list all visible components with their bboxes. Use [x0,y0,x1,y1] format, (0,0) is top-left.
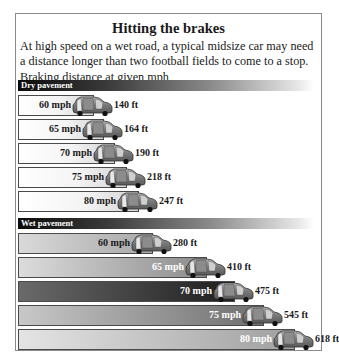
distance-label: 545 ft [284,309,308,320]
wet-section-header: Wet pavement [18,218,314,229]
car-icon [105,167,146,189]
wet-row: 80 mph 618 ft [18,329,318,350]
speed-label: 60 mph [39,99,71,110]
distance-label: 140 ft [114,99,138,110]
car-icon [117,191,158,213]
speed-label: 60 mph [98,237,130,248]
distance-label: 618 ft [315,333,339,344]
speed-label: 80 mph [240,333,272,344]
car-icon [242,305,283,327]
distance-label: 218 ft [147,171,171,182]
speed-label: 70 mph [60,147,92,158]
infographic-frame: Hitting the brakes At high speed on a we… [15,13,322,351]
distance-label: 410 ft [227,261,251,272]
car-icon [213,281,254,303]
wet-row: 75 mph 545 ft [18,305,318,326]
car-icon [131,233,172,255]
dry-section-header: Dry pavement [18,80,314,91]
distance-label: 280 ft [173,237,197,248]
speed-label: 70 mph [180,285,212,296]
speed-label: 80 mph [84,195,116,206]
car-icon [93,143,134,165]
dry-row: 60 mph 140 ft [18,95,318,116]
distance-label: 475 ft [255,285,279,296]
wet-row: 60 mph 280 ft [18,233,318,254]
wet-row: 65 mph 410 ft [18,257,318,278]
intro-text: At high speed on a wet road, a typical m… [20,39,318,69]
chart-title: Hitting the brakes [16,20,321,37]
dry-row: 80 mph 247 ft [18,191,318,212]
distance-label: 190 ft [135,147,159,158]
car-icon [185,257,226,279]
dry-row: 65 mph 164 ft [18,119,318,140]
speed-label: 75 mph [72,171,104,182]
distance-label: 247 ft [159,195,183,206]
speed-label: 65 mph [49,123,81,134]
dry-row: 70 mph 190 ft [18,143,318,164]
wet-row: 70 mph 475 ft [18,281,318,302]
dry-row: 75 mph 218 ft [18,167,318,188]
car-icon [72,95,113,117]
car-icon [82,119,123,141]
speed-label: 75 mph [209,309,241,320]
car-icon [273,329,314,351]
distance-label: 164 ft [124,123,148,134]
speed-label: 65 mph [152,261,184,272]
